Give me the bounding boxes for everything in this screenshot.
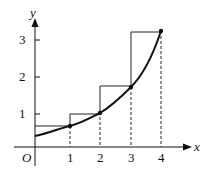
point-4 [159,29,163,33]
point-1 [68,124,72,128]
point-2 [98,111,102,115]
x-axis-label: x [193,139,200,154]
figure: y x O 1 2 3 4 1 2 3 [0,0,208,174]
x-tick-label-3: 3 [128,150,135,165]
point-3 [129,85,133,89]
y-tick-label-1: 1 [19,106,26,121]
x-tick-label-1: 1 [67,150,74,165]
y-tick-label-2: 2 [19,69,26,84]
origin-label: O [22,150,32,165]
x-tick-label-4: 4 [158,150,165,165]
y-tick-label-3: 3 [19,32,26,47]
x-tick-label-2: 2 [97,150,104,165]
x-axis-arrow-icon [183,144,192,151]
exponential-curve [35,31,161,136]
y-axis-label: y [28,5,36,20]
step-rectangles [35,32,161,126]
